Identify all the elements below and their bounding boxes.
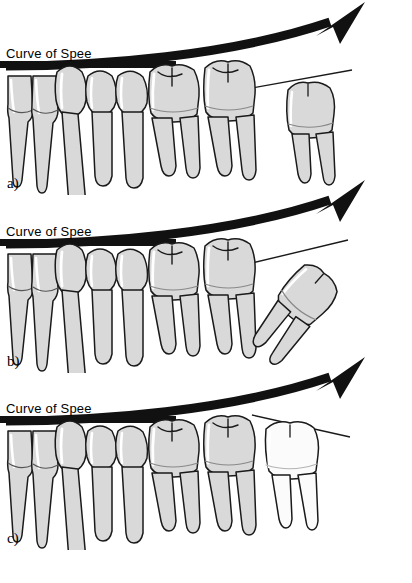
tooth-second-premolar (116, 426, 148, 543)
tooth-canine (55, 244, 86, 373)
curve-of-spee-baseline (0, 61, 176, 68)
curve-of-spee-baseline (0, 239, 176, 246)
tooth-central-incisor (8, 254, 33, 365)
panel-a: Curve of Spee a) (0, 0, 412, 195)
panel-c: Curve of Spee c) (0, 355, 412, 550)
tooth-second-premolar (116, 71, 148, 188)
tooth-second-molar (204, 416, 256, 535)
curve-of-spee-label: Curve of Spee (6, 46, 92, 61)
curve-of-spee-label: Curve of Spee (6, 224, 92, 239)
tooth-lateral-incisor (32, 76, 58, 193)
tooth-canine (55, 66, 86, 195)
tooth-third-molar (265, 422, 318, 530)
panel-b: Curve of Spee b) (0, 178, 412, 373)
tooth-lateral-incisor (32, 431, 58, 548)
tooth-canine (55, 421, 86, 550)
tooth-central-incisor (8, 76, 33, 187)
curve-of-spee-baseline (0, 416, 176, 423)
tooth-first-premolar (86, 249, 117, 364)
tooth-first-molar (149, 243, 200, 356)
tooth-first-molar (149, 65, 200, 178)
tooth-lateral-incisor (32, 254, 58, 371)
tooth-second-molar (204, 239, 256, 358)
tooth-second-premolar (116, 249, 148, 366)
tooth-central-incisor (8, 431, 33, 542)
panel-a-illustration (0, 0, 412, 195)
distal-tangent-line (248, 240, 348, 264)
panel-b-illustration (0, 178, 412, 373)
figure-canvas: Curve of Spee a) (0, 0, 412, 583)
tooth-first-premolar (86, 71, 117, 186)
panel-c-illustration (0, 355, 412, 550)
tooth-second-molar (204, 61, 256, 180)
tooth-third-molar (287, 82, 335, 185)
panel-label-c: c) (7, 530, 19, 547)
curve-of-spee-label: Curve of Spee (6, 401, 92, 416)
tooth-first-molar (149, 420, 200, 533)
tooth-first-premolar (86, 426, 117, 541)
